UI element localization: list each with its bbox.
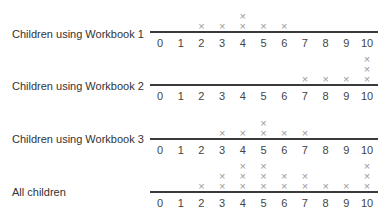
tick-label: 4: [233, 37, 253, 49]
tick-label: 3: [212, 144, 232, 156]
tick-label: 1: [171, 144, 191, 156]
x-mark: ×: [361, 54, 373, 64]
x-mark: ×: [299, 171, 311, 181]
tick-label: 2: [191, 197, 211, 209]
tick-label: 3: [212, 90, 232, 102]
x-mark: ×: [237, 21, 249, 31]
x-mark: ×: [361, 64, 373, 74]
row-label: All children: [12, 186, 66, 198]
x-mark: ×: [361, 161, 373, 171]
x-mark: ×: [361, 74, 373, 84]
tick-label: 7: [295, 144, 315, 156]
row-label: Children using Workbook 1: [12, 28, 144, 40]
tick-label: 5: [254, 37, 274, 49]
row-label: Children using Workbook 2: [12, 80, 144, 92]
x-mark: ×: [340, 181, 352, 191]
tick-label: 2: [191, 37, 211, 49]
tick-label: 8: [316, 90, 336, 102]
x-mark: ×: [320, 74, 332, 84]
x-mark: ×: [278, 171, 290, 181]
tick-label: 7: [295, 197, 315, 209]
tick-label: 10: [357, 90, 377, 102]
tick-label: 0: [150, 90, 170, 102]
tick-label: 2: [191, 144, 211, 156]
x-mark: ×: [216, 171, 228, 181]
tick-label: 1: [171, 37, 191, 49]
tick-label: 0: [150, 144, 170, 156]
x-mark: ×: [299, 74, 311, 84]
x-mark: ×: [258, 128, 270, 138]
tick-label: 7: [295, 90, 315, 102]
x-mark: ×: [237, 161, 249, 171]
x-mark: ×: [258, 118, 270, 128]
tick-label: 10: [357, 37, 377, 49]
x-mark: ×: [258, 161, 270, 171]
tick-label: 1: [171, 90, 191, 102]
tick-label: 6: [274, 197, 294, 209]
tick-label: 2: [191, 90, 211, 102]
tick-label: 3: [212, 37, 232, 49]
tick-label: 4: [233, 144, 253, 156]
x-mark: ×: [278, 181, 290, 191]
tick-label: 4: [233, 197, 253, 209]
x-mark: ×: [237, 11, 249, 21]
tick-label: 9: [336, 37, 356, 49]
x-mark: ×: [278, 128, 290, 138]
x-mark: ×: [258, 181, 270, 191]
x-mark: ×: [237, 128, 249, 138]
x-mark: ×: [361, 181, 373, 191]
tick-label: 6: [274, 90, 294, 102]
tick-label: 5: [254, 144, 274, 156]
tick-label: 4: [233, 90, 253, 102]
tick-label: 9: [336, 144, 356, 156]
tick-label: 8: [316, 197, 336, 209]
tick-label: 8: [316, 37, 336, 49]
x-mark: ×: [216, 181, 228, 191]
x-mark: ×: [299, 181, 311, 191]
x-mark: ×: [361, 171, 373, 181]
tick-label: 0: [150, 197, 170, 209]
tick-label: 0: [150, 37, 170, 49]
x-mark: ×: [195, 181, 207, 191]
tick-label: 1: [171, 197, 191, 209]
tick-label: 6: [274, 144, 294, 156]
x-mark: ×: [340, 74, 352, 84]
x-mark: ×: [299, 128, 311, 138]
tick-label: 6: [274, 37, 294, 49]
x-mark: ×: [320, 181, 332, 191]
x-mark: ×: [195, 21, 207, 31]
tick-label: 5: [254, 197, 274, 209]
tick-label: 9: [336, 90, 356, 102]
x-mark: ×: [237, 181, 249, 191]
row-label: Children using Workbook 3: [12, 133, 144, 145]
tick-label: 10: [357, 197, 377, 209]
tick-label: 3: [212, 197, 232, 209]
x-mark: ×: [278, 21, 290, 31]
tick-label: 9: [336, 197, 356, 209]
x-mark: ×: [237, 171, 249, 181]
x-mark: ×: [216, 21, 228, 31]
tick-label: 8: [316, 144, 336, 156]
tick-label: 5: [254, 90, 274, 102]
x-mark: ×: [258, 171, 270, 181]
tick-label: 7: [295, 37, 315, 49]
tick-label: 10: [357, 144, 377, 156]
x-mark: ×: [216, 128, 228, 138]
x-mark: ×: [258, 21, 270, 31]
